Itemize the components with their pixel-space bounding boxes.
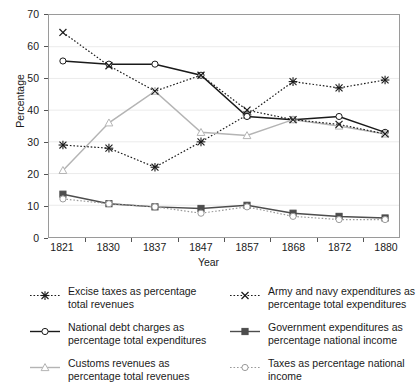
data-point — [335, 84, 344, 93]
chart-figure: Percentage 010203040506070 1821183018371… — [0, 0, 417, 384]
series-5 — [60, 196, 388, 223]
undefined — [28, 289, 62, 302]
data-point — [244, 204, 250, 210]
undefined — [28, 361, 62, 374]
data-point — [336, 216, 342, 222]
data-point — [382, 216, 388, 222]
dotted-cross-marker-icon — [228, 288, 262, 301]
x-tick-label: 1830 — [85, 242, 131, 253]
dotted-triangle-marker-icon — [28, 360, 62, 373]
x-tick-label: 1821 — [39, 242, 85, 253]
y-tick-label: 40 — [9, 105, 39, 116]
data-point — [105, 119, 113, 126]
data-point — [336, 113, 342, 119]
x-axis-label: Year — [0, 256, 417, 268]
y-tick-label: 60 — [9, 41, 39, 52]
x-tick-label: 1837 — [132, 242, 178, 253]
data-point — [59, 141, 68, 150]
legend-item-label: Excise taxes as percentage total revenue… — [68, 285, 218, 310]
y-tick-label: 10 — [9, 201, 39, 212]
legend-item-label: Taxes as percentage national income — [268, 357, 417, 382]
solid-circle-marker-icon — [28, 324, 62, 337]
data-point — [152, 204, 158, 210]
undefined — [228, 361, 262, 374]
legend-item-label: Government expenditures as percentage na… — [268, 321, 417, 346]
x-tick-label: 1880 — [363, 242, 409, 253]
y-tick-label: 70 — [9, 9, 39, 20]
undefined — [228, 325, 262, 338]
series-2 — [59, 87, 389, 173]
x-tick-label: 1847 — [178, 242, 224, 253]
undefined — [28, 325, 62, 338]
x-tick-label: 1857 — [224, 242, 270, 253]
data-point — [242, 292, 249, 299]
legend-item-label: Customs revenues as percentage total rev… — [68, 357, 218, 382]
plot-area — [48, 14, 400, 238]
data-point — [242, 364, 248, 370]
data-point — [60, 196, 66, 202]
data-point — [242, 328, 248, 334]
data-point — [151, 163, 160, 172]
chart-legend: Excise taxes as percentage total revenue… — [0, 282, 417, 382]
data-point — [60, 58, 66, 64]
data-point — [59, 29, 66, 36]
y-tick-label: 30 — [9, 137, 39, 148]
data-point — [381, 76, 390, 85]
y-tick-mark — [44, 238, 48, 239]
y-tick-label: 20 — [9, 169, 39, 180]
legend-item-label: Army and navy expenditures as percentage… — [268, 285, 417, 310]
series-line — [63, 91, 385, 170]
data-point — [198, 210, 204, 216]
data-point — [41, 291, 50, 300]
data-point — [106, 201, 112, 207]
plot-svg — [49, 15, 399, 237]
data-point — [42, 328, 48, 334]
data-point — [289, 77, 298, 86]
x-tick-label: 1872 — [317, 242, 363, 253]
data-point — [105, 144, 114, 153]
undefined — [228, 289, 262, 302]
data-point — [290, 213, 296, 219]
data-point — [197, 138, 206, 147]
y-tick-label: 0 — [9, 233, 39, 244]
x-tick-label: 1868 — [270, 242, 316, 253]
dotted-circle-marker-icon — [228, 360, 262, 373]
solid-square-marker-icon — [228, 324, 262, 337]
legend-item-label: National debt charges as percentage tota… — [68, 321, 218, 346]
data-point — [244, 113, 250, 119]
data-point — [152, 61, 158, 67]
dotted-asterisk-marker-icon — [28, 288, 62, 301]
y-tick-label: 50 — [9, 73, 39, 84]
